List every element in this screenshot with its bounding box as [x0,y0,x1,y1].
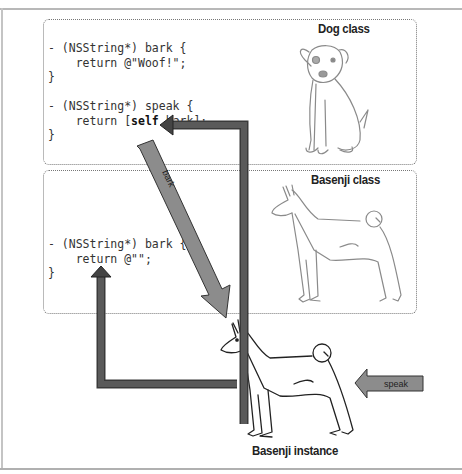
speak-arrow-label: speak [384,379,409,389]
speak-message-arrow-icon: speak [355,369,423,398]
bark-message-arrow-icon: bark [137,140,230,318]
diagram-graphics: bark speak [0,0,462,474]
dog-drawing-icon [300,46,368,154]
basenji-class-drawing-icon [272,185,401,302]
